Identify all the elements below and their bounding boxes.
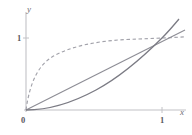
curve-identity-line — [26, 30, 185, 110]
figure-canvas: y x 1 0 1 — [0, 0, 192, 135]
origin-tick-label-0: 0 — [21, 116, 25, 125]
y-tick-label-1: 1 — [17, 34, 21, 43]
curve-concave-dashed — [26, 37, 185, 110]
curve-convex-solid — [26, 19, 179, 110]
x-tick-label-1: 1 — [160, 116, 164, 125]
y-axis-label: y — [27, 5, 31, 14]
x-axis-label: x — [180, 108, 184, 117]
